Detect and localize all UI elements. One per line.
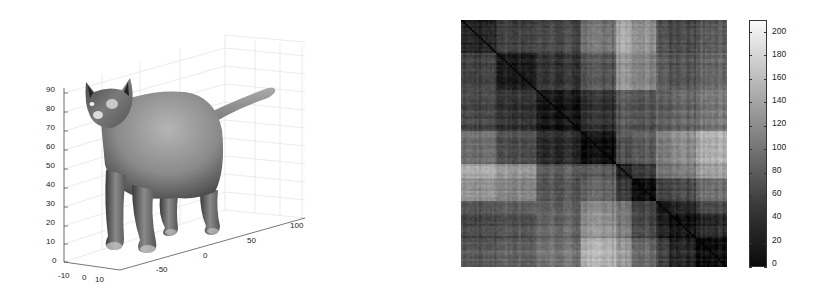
colorbar-tick [749,55,752,56]
z-tick-label: 30 [46,200,55,208]
z-tick-label: 40 [46,181,55,189]
colorbar-tick [764,79,767,80]
colorbar-tick [764,102,767,103]
colorbar-tick [749,220,752,221]
colorbar-label: 40 [772,212,781,221]
z-tick-label: 20 [46,219,55,227]
cat-3d-plot: 90 80 70 60 50 40 30 20 10 0 -10 0 10 -5… [0,0,330,295]
y-tick-label: 0 [203,252,207,260]
x-tick-label: 10 [95,276,104,284]
colorbar-tick [749,149,752,150]
colorbar-tick [749,243,752,244]
colorbar-label: 0 [772,259,777,268]
colorbar-tick [764,220,767,221]
colorbar-tick [764,173,767,174]
z-tick-label: 70 [46,124,55,132]
y-tick-label: -50 [156,266,168,274]
colorbar-tick [764,126,767,127]
colorbar-tick [764,267,767,268]
z-tick-label: 80 [46,105,55,113]
x-tick-label: 0 [82,274,86,282]
colorbar-tick [749,79,752,80]
colorbar-label: 200 [772,27,786,36]
z-ticks [64,93,68,262]
colorbar-tick [764,55,767,56]
cat-mesh [86,78,276,253]
z-tick-label: 10 [46,238,55,246]
colorbar-label: 120 [772,119,786,128]
colorbar-tick [764,243,767,244]
colorbar-tick [749,173,752,174]
y-tick-label: 50 [247,237,256,245]
colorbar-tick [749,126,752,127]
colorbar-tick [749,32,752,33]
z-tick-label: 0 [52,257,56,265]
colorbar-label: 80 [772,166,781,175]
colorbar-label: 160 [772,73,786,82]
z-tick-label: 50 [46,162,55,170]
z-tick-label: 60 [46,143,55,151]
colorbar [749,20,767,267]
colorbar-label: 100 [772,143,786,152]
x-tick-label: -10 [58,272,70,280]
y-tick-label: 100 [290,222,303,230]
colorbar-tick [749,102,752,103]
colorbar-label: 20 [772,236,781,245]
colorbar-label: 60 [772,189,781,198]
colorbar-tick [764,196,767,197]
colorbar-tick [749,196,752,197]
colorbar-label: 140 [772,96,786,105]
heatmap-canvas [461,20,727,267]
distance-matrix-heatmap [461,20,727,267]
colorbar-tick [749,267,752,268]
colorbar-label: 180 [772,50,786,59]
z-tick-label: 90 [46,86,55,94]
colorbar-tick [764,149,767,150]
colorbar-tick [764,32,767,33]
